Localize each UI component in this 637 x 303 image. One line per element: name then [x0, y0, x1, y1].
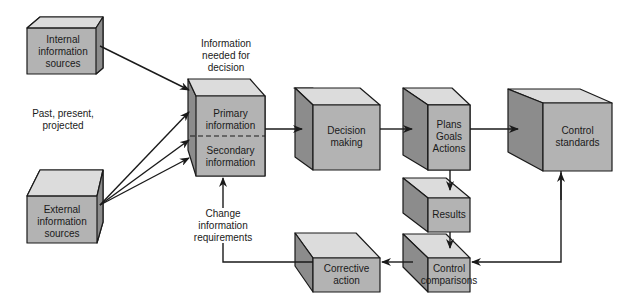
- control-comparisons-label: Control comparisons: [420, 263, 478, 287]
- plans-goals-actions-label: Plans Goals Actions: [428, 119, 470, 155]
- primary-information-label: Primary information: [196, 108, 265, 132]
- arrow-external-to-info-2: [100, 140, 189, 205]
- arrow-internal-to-info: [100, 46, 189, 90]
- arrow-external-to-info-3: [100, 158, 189, 205]
- external-sources-label: External information sources: [27, 204, 97, 240]
- information-decision-diagram: Internal information sources External in…: [0, 0, 637, 303]
- arrow-external-to-info-1: [100, 112, 189, 205]
- secondary-information-label: Secondary information: [196, 145, 265, 169]
- control-standards-label: Control standards: [543, 125, 612, 149]
- internal-sources-label: Internal information sources: [30, 34, 96, 70]
- change-requirements-annotation: Change information requirements: [185, 208, 261, 244]
- results-label: Results: [428, 209, 470, 221]
- arrow-standards-to-comparisons: [472, 171, 561, 262]
- results-box: [403, 178, 470, 232]
- time-frame-annotation: Past, present, projected: [28, 108, 98, 132]
- corrective-action-label: Corrective action: [313, 263, 380, 287]
- info-needed-annotation: Information needed for decision: [188, 38, 264, 74]
- decision-making-label: Decision making: [313, 125, 380, 149]
